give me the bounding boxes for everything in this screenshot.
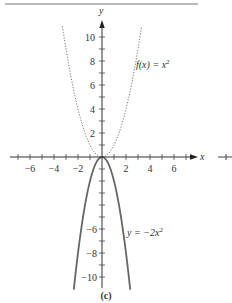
x-tick-label: 2 xyxy=(124,163,129,174)
y-axis-label: y xyxy=(98,5,104,16)
y-axis-arrow-icon xyxy=(99,20,104,28)
x-axis-label: x xyxy=(199,151,205,162)
y-tick-label: −8 xyxy=(86,248,97,259)
y-tick-label: 6 xyxy=(90,80,95,91)
parabola-chart: x y −6 −4 −2 2 4 6 10 8 6 4 2 −6 −8 −10 … xyxy=(0,0,232,303)
y-tick-label: 4 xyxy=(90,104,95,115)
g-equation-label: y = −2x2 xyxy=(126,226,163,238)
x-tick-labels: −6 −4 −2 2 4 6 xyxy=(25,163,177,174)
y-tick-label: −6 xyxy=(86,224,97,235)
f-equation-label: f(x) = x2 xyxy=(136,58,170,71)
y-axis: y xyxy=(98,5,105,288)
y-tick-label: −10 xyxy=(81,272,97,283)
y-tick-label: 10 xyxy=(85,32,95,43)
x-tick-label: −4 xyxy=(49,163,60,174)
x-tick-label: −6 xyxy=(25,163,36,174)
x-tick-label: 4 xyxy=(148,163,153,174)
x-tick-label: 6 xyxy=(172,163,177,174)
x-axis-arrow-icon xyxy=(190,154,198,159)
adjacent-axis-fragment xyxy=(218,154,232,160)
y-tick-label: 2 xyxy=(90,128,95,139)
y-tick-label: 8 xyxy=(90,56,95,67)
x-tick-label: −2 xyxy=(73,163,84,174)
figure-caption: (c) xyxy=(100,290,111,302)
